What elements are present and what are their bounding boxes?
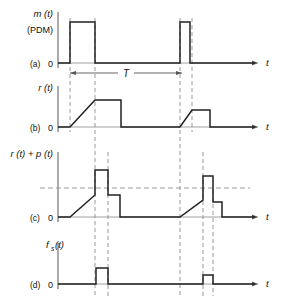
waveform-figure: m (t) (PDM) (a) 0 t T r (t) (b) 0 t r (t… <box>0 0 291 299</box>
panel-a <box>58 12 258 68</box>
panel-a-ylabel2: (PDM) <box>27 25 53 35</box>
period-label: T <box>123 68 130 79</box>
panel-c-ylabel: r (t) + p (t) <box>11 148 54 159</box>
ramp-plus-pulse-waveform <box>58 170 255 217</box>
panel-b-origin: 0 <box>48 123 53 133</box>
sampling-pulse-waveform <box>58 268 255 284</box>
panel-c-origin: 0 <box>48 213 53 223</box>
panel-a-origin: 0 <box>48 59 53 69</box>
period-arrow-right <box>176 71 182 75</box>
panel-b-tag: (b) <box>30 123 41 133</box>
panel-d-tag: (d) <box>30 280 41 290</box>
panel-d <box>58 243 258 289</box>
pdm-waveform <box>58 22 255 63</box>
diagram-canvas: m (t) (PDM) (a) 0 t T r (t) (b) 0 t r (t… <box>0 0 291 299</box>
ramp-waveform <box>58 100 255 127</box>
panel-c-tag: (c) <box>30 213 40 223</box>
dashed-guide-group <box>70 18 213 296</box>
panel-b <box>58 86 258 132</box>
label-group: m (t) (PDM) (a) 0 t T r (t) (b) 0 t r (t… <box>11 8 270 290</box>
panel-c-xlabel: t <box>266 211 269 222</box>
panel-d-xlabel: t <box>266 278 269 289</box>
panel-a-xlabel: t <box>266 57 269 68</box>
panel-a-tag: (a) <box>30 59 41 69</box>
panel-b-ylabel: r (t) <box>38 82 53 93</box>
panel-a-ylabel: m (t) <box>33 8 53 19</box>
panel-b-xlabel: t <box>266 121 269 132</box>
panel-d-ylabel-arg: (t) <box>55 239 64 250</box>
panel-c <box>40 152 258 222</box>
period-arrow-left <box>70 71 76 75</box>
panel-d-origin: 0 <box>48 280 53 290</box>
panel-d-ylabel-f: f <box>46 239 50 250</box>
